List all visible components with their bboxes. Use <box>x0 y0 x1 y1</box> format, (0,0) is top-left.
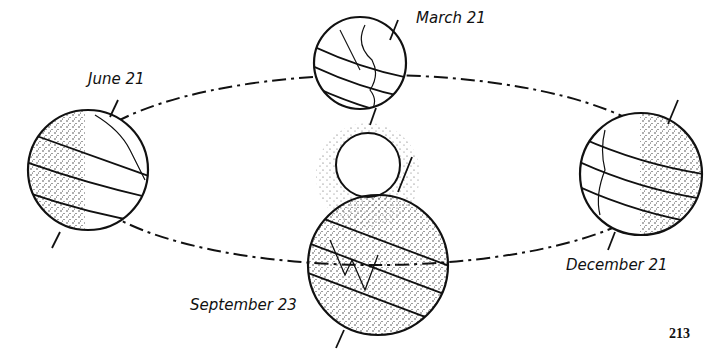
label-september: September 23 <box>190 296 297 314</box>
label-june: June 21 <box>88 70 145 88</box>
label-march: March 21 <box>416 9 486 27</box>
page-number: 213 <box>669 326 690 342</box>
globe-december <box>575 100 710 250</box>
globe-march <box>300 17 420 125</box>
label-december: December 21 <box>566 256 668 274</box>
globe-june <box>20 100 160 248</box>
orbit-diagram <box>0 0 725 361</box>
